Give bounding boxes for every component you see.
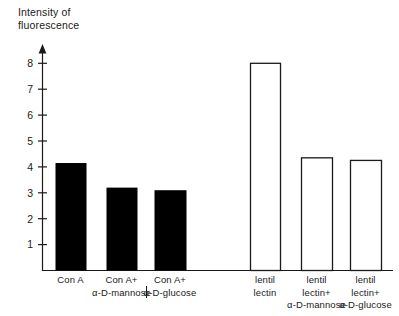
y-tick-label: 4 bbox=[27, 161, 33, 173]
y-axis bbox=[39, 44, 47, 271]
bars-group bbox=[56, 63, 382, 270]
bar bbox=[155, 190, 187, 270]
y-tick-label: 3 bbox=[27, 187, 33, 199]
y-tick-label: 8 bbox=[27, 57, 33, 69]
bar bbox=[351, 160, 382, 270]
category-label-line: Con A+ bbox=[125, 274, 215, 287]
bar bbox=[302, 158, 333, 271]
y-axis-ticks: 12345678 bbox=[27, 57, 47, 250]
category-label-line: lectin+ bbox=[321, 287, 399, 300]
y-tick-label: 6 bbox=[27, 109, 33, 121]
bar bbox=[251, 63, 281, 270]
y-tick-label: 5 bbox=[27, 135, 33, 147]
category-label-line: α-D-glucose bbox=[125, 287, 215, 300]
y-tick-label: 1 bbox=[27, 238, 33, 250]
plot-area: 12345678 bbox=[0, 0, 399, 316]
category-label-line: α-D-glucose bbox=[321, 299, 399, 312]
category-label-line: lentil bbox=[321, 274, 399, 287]
y-tick-label: 2 bbox=[27, 213, 33, 225]
y-tick-label: 7 bbox=[27, 83, 33, 95]
y-axis-arrow-icon bbox=[39, 44, 47, 54]
bar bbox=[107, 188, 138, 271]
category-label: lentillectin+α-D-glucose bbox=[321, 274, 399, 312]
bar bbox=[56, 163, 87, 270]
category-label: Con A+α-D-glucose bbox=[125, 274, 215, 299]
bar-chart-figure: Intensity of fluorescence 12345678 Con A… bbox=[0, 0, 399, 316]
